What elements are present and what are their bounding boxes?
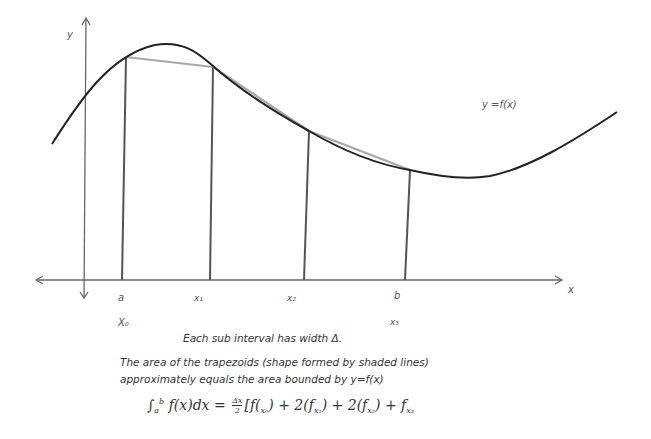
vertical-a: [122, 57, 126, 280]
integral-lower-limit: a: [154, 406, 159, 415]
tick-label-x0: X₀: [117, 317, 129, 328]
term-3-sub: x₃: [406, 406, 414, 415]
term-1: ) + 2(f: [268, 397, 314, 413]
term-3: ) + f: [375, 397, 406, 413]
x-axis: [36, 276, 562, 284]
trapezoid-formula: ∫ab f(x)dx = Δx2[f(x₀) + 2(fx₁) + 2(fx₂)…: [147, 396, 414, 415]
vertical-b: [405, 170, 410, 280]
tick-label-a: a: [118, 292, 124, 303]
tick-label-b: b: [394, 290, 400, 301]
trapezoid-tops: [126, 57, 410, 170]
function-curve: [52, 44, 617, 178]
term-2: ) + 2(f: [322, 397, 368, 413]
term-0: [f(: [244, 397, 260, 413]
term-1-sub: x₁: [314, 406, 322, 415]
y-axis-label: y: [66, 29, 74, 40]
tick-label-x1: x₁: [193, 293, 203, 303]
integral-upper-limit: b: [159, 397, 164, 406]
frac-denominator: 2: [232, 406, 242, 415]
vertical-x2: [304, 131, 309, 280]
vertical-x1: [210, 67, 213, 280]
tick-labels: a X₀ x₁ x₂ b x₃: [117, 290, 400, 328]
frac-numerator: Δx: [232, 396, 242, 406]
curve-label: y =f(x): [481, 99, 517, 110]
tick-label-x3: x₃: [389, 317, 399, 327]
area-caption-line-1: The area of the trapezoids (shape formed…: [120, 356, 429, 368]
subinterval-width-caption: Each sub interval has width Δ.: [183, 332, 342, 344]
tick-label-x2: x₂: [286, 293, 296, 303]
term-2-sub: x₂: [367, 406, 375, 415]
area-caption-line-2: approximately equals the area bounded by…: [120, 373, 384, 385]
y-axis: [80, 18, 90, 298]
trapezoid-rule-diagram: y x y =f(x) a X₀ x₁ x₂ b x₃: [0, 0, 651, 330]
trapezoid-verticals: [122, 57, 410, 280]
delta-x-over-2: Δx2: [232, 396, 242, 415]
x-axis-label: x: [567, 284, 574, 295]
integrand: f(x)dx =: [169, 397, 226, 413]
